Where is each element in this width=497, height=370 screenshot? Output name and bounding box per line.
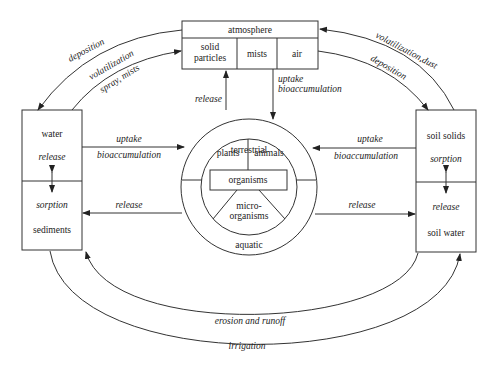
soil-sorption-label: sorption (430, 154, 462, 164)
left-bioaccumulation-label: bioaccumulation (97, 150, 161, 160)
animals-label: animals (254, 148, 284, 158)
right-release-label: release (348, 200, 375, 210)
mists-label: mists (247, 49, 267, 59)
soil-box: soil solids sorption release soil water (416, 110, 476, 252)
air-label: air (292, 49, 303, 59)
left-release-label: release (115, 200, 142, 210)
micro-label: micro- (236, 201, 261, 211)
atm-release-label: release (195, 94, 222, 104)
water-release-label: release (38, 152, 65, 162)
particles-label: particles (194, 53, 226, 63)
sediment-sorption-label: sorption (36, 200, 68, 210)
right-bioaccumulation-label: bioaccumulation (334, 151, 398, 161)
organisms-center-label: organisms (229, 175, 268, 185)
microorganisms-label: organisms (230, 211, 269, 221)
soil-water-label: soil water (427, 228, 465, 238)
atm-uptake-label: uptake (278, 74, 303, 84)
solid-label: solid (201, 42, 220, 52)
soil-solids-label: soil solids (427, 131, 466, 141)
left-deposition-label: deposition (66, 36, 106, 64)
water-sediments-box: water release sorption sediments (22, 110, 82, 250)
atmosphere-title: atmosphere (228, 25, 272, 35)
aquatic-label: aquatic (235, 240, 262, 250)
organisms-circle: terrestrial plants animals organisms mic… (181, 119, 317, 255)
irrigation-arrow (50, 251, 460, 344)
environmental-cycle-diagram: atmosphere solid particles mists air wat… (0, 0, 497, 370)
irrigation-label: irrigation (229, 341, 266, 351)
atm-bioaccumulation-label: bioaccumulation (278, 84, 342, 94)
water-label: water (41, 129, 63, 139)
erosion-runoff-arrow (86, 252, 418, 314)
erosion-label: erosion and runoff (215, 316, 287, 326)
right-uptake-label: uptake (357, 134, 382, 144)
atmosphere-box: atmosphere solid particles mists air (182, 21, 318, 69)
left-uptake-label: uptake (116, 134, 141, 144)
sediments-label: sediments (33, 225, 71, 235)
soil-release-label: release (432, 202, 459, 212)
plants-label: plants (217, 148, 240, 158)
